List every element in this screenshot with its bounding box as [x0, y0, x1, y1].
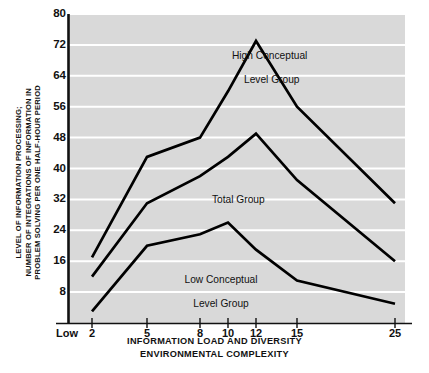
x-axis-title-line1: INFORMATION LOAD AND DIVERSITY [0, 336, 429, 346]
chart-figure: LEVEL OF INFORMATION PROCESSING; NUMBER … [0, 0, 429, 373]
annotation-high-line1: High Conceptual [232, 50, 307, 61]
annotation-total-line1: Total Group [212, 194, 265, 205]
annotation-high-conceptual-level-group: High Conceptual Level Group [232, 38, 307, 86]
annotation-high-line2: Level Group [232, 74, 300, 86]
x-axis-title-line2: ENVIRONMENTAL COMPLEXITY [0, 349, 429, 359]
annotation-low-line2: Level Group [193, 298, 249, 309]
annotation-low-conceptual-level-group: Low Conceptual Level Group [163, 262, 279, 310]
annotation-total-group: Total Group [212, 182, 265, 206]
annotation-low-line1: Low Conceptual [184, 274, 257, 285]
